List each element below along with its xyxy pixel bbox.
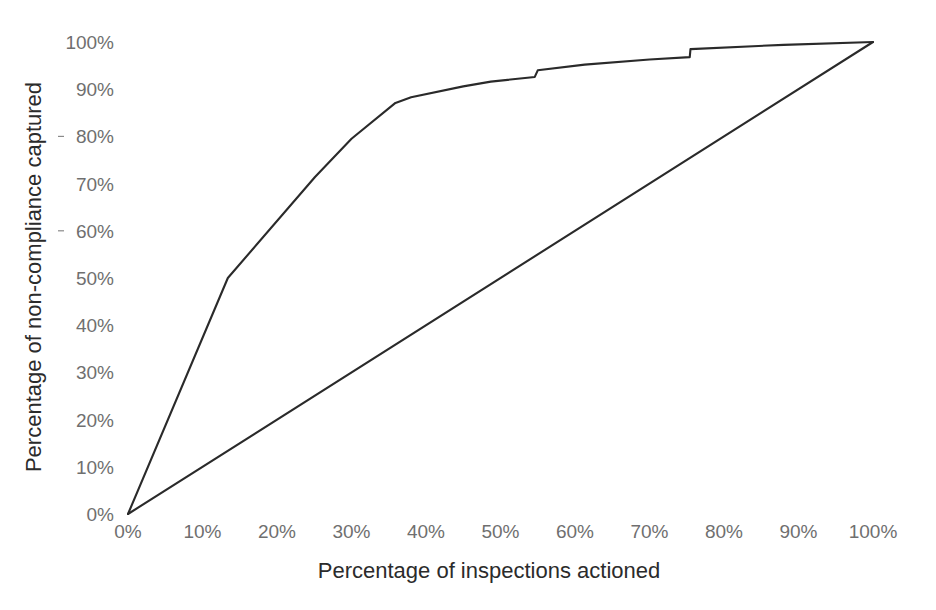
x-tick-label: 10% xyxy=(183,521,221,542)
x-tick-label: 40% xyxy=(407,521,445,542)
x-tick-label: 90% xyxy=(779,521,817,542)
x-tick-label: 30% xyxy=(332,521,370,542)
lorenz-curve-chart: 0%10%20%30%40%50%60%70%80%90%100% 0%10%2… xyxy=(0,0,936,610)
y-tick-label: 90% xyxy=(76,79,114,100)
x-axis-title: Percentage of inspections actioned xyxy=(318,558,660,583)
y-tick-label: 80% xyxy=(76,126,114,147)
x-tick-label: 80% xyxy=(705,521,743,542)
y-tick-label: 70% xyxy=(76,174,114,195)
axis-tick-marks xyxy=(58,136,64,230)
y-tick-label: 20% xyxy=(76,410,114,431)
chart-container: 0%10%20%30%40%50%60%70%80%90%100% 0%10%2… xyxy=(0,0,936,610)
y-tick-label: 100% xyxy=(65,32,114,53)
y-tick-label: 0% xyxy=(87,504,115,525)
random-baseline-line xyxy=(128,42,873,514)
x-tick-label: 20% xyxy=(258,521,296,542)
y-tick-label: 50% xyxy=(76,268,114,289)
x-tick-label: 50% xyxy=(481,521,519,542)
y-tick-label: 30% xyxy=(76,362,114,383)
y-axis-tick-labels: 0%10%20%30%40%50%60%70%80%90%100% xyxy=(65,32,114,525)
y-tick-label: 60% xyxy=(76,221,114,242)
x-axis-tick-labels: 0%10%20%30%40%50%60%70%80%90%100% xyxy=(114,521,897,542)
x-tick-label: 0% xyxy=(114,521,142,542)
y-axis-title: Percentage of non-compliance captured xyxy=(21,82,46,472)
x-tick-label: 60% xyxy=(556,521,594,542)
y-tick-label: 10% xyxy=(76,457,114,478)
x-tick-label: 100% xyxy=(849,521,898,542)
x-tick-label: 70% xyxy=(630,521,668,542)
y-tick-label: 40% xyxy=(76,315,114,336)
